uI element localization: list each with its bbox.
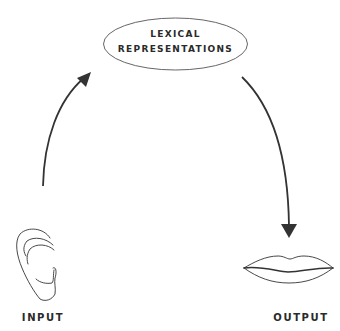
node-label-line2: REPRESENTATIONS bbox=[103, 42, 248, 57]
lips-icon bbox=[244, 256, 333, 283]
output-label: OUTPUT bbox=[262, 312, 340, 323]
input-label: INPUT bbox=[8, 312, 78, 323]
node-label-line1: LEXICAL bbox=[103, 27, 248, 42]
input-to-node-arrow bbox=[43, 72, 91, 186]
node-to-output-arrow bbox=[242, 77, 297, 238]
ear-icon bbox=[17, 229, 56, 300]
node-label: LEXICAL REPRESENTATIONS bbox=[103, 27, 248, 57]
